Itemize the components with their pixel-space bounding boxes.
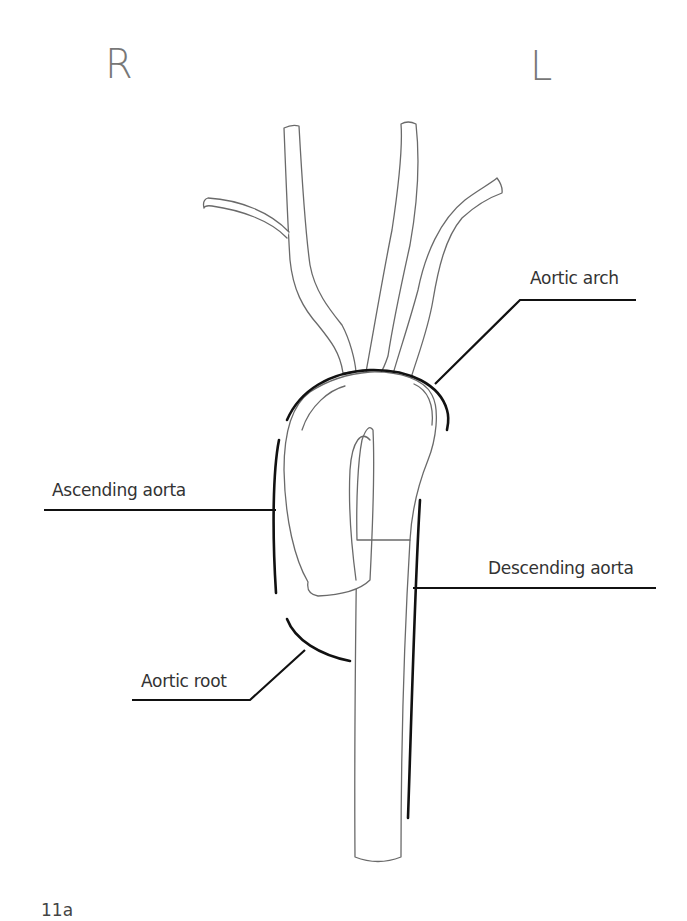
descending-aorta-label: Descending aorta bbox=[488, 558, 634, 578]
figure-number: 11a bbox=[41, 900, 73, 920]
aortic-arch-label: Aortic arch bbox=[530, 268, 619, 288]
ascending-aorta-bracket bbox=[274, 440, 279, 593]
aorta-diagram bbox=[0, 0, 687, 921]
aortic-arch-leader bbox=[435, 300, 636, 384]
aortic-root-bracket bbox=[287, 619, 350, 661]
aortic-root-label: Aortic root bbox=[141, 671, 227, 691]
right-subclavian-branch bbox=[204, 198, 290, 238]
aortic-arch-vessel bbox=[284, 372, 436, 596]
brachiocephalic-trunk-vessel bbox=[284, 125, 356, 373]
ascending-aorta-label: Ascending aorta bbox=[52, 480, 186, 500]
